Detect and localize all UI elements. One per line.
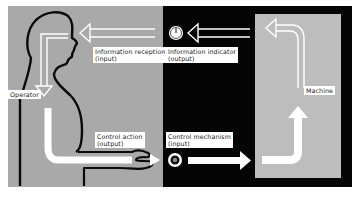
dial-gauge-icon — [169, 26, 183, 40]
machine-label: Machine — [304, 86, 335, 95]
information-reception-label: Information reception (input) — [93, 47, 167, 63]
information-indicator-label: Information indicator (output) — [166, 47, 238, 63]
control-action-label: Control action (output) — [95, 132, 145, 148]
man-machine-diagram: Operator Machine Information reception (… — [0, 0, 357, 197]
mechanism-to-machine-shaft — [188, 157, 240, 164]
diagram-canvas — [0, 0, 357, 197]
operator-label: Operator — [8, 90, 41, 99]
control-mechanism-label: Control mechanism (input) — [166, 132, 233, 148]
knob-icon — [168, 153, 182, 167]
